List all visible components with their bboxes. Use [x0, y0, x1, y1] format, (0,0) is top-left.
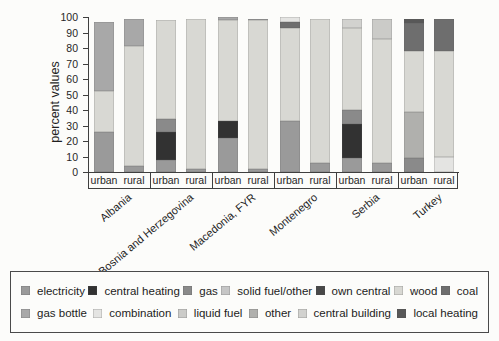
legend-swatch-icon — [178, 309, 187, 318]
country-label-albania: Albania — [98, 191, 134, 224]
country-labels: AlbaniaBosnia and HerzegovinaMacedonia, … — [88, 191, 458, 261]
y-tick-mark — [83, 17, 88, 18]
legend-label: coal — [457, 285, 478, 297]
legend-item-central-heating: central heating — [88, 285, 179, 297]
legend-label: local heating — [413, 307, 478, 319]
legend-item-electricity: electricity — [21, 285, 85, 297]
segment-coal — [404, 23, 424, 51]
legend-box: electricitycentral heatinggassolid fuel/… — [10, 271, 489, 333]
legend-swatch-icon — [93, 309, 102, 318]
segment-central-heating — [156, 132, 176, 160]
y-tick-mark — [83, 79, 88, 80]
segment-electricity — [342, 158, 362, 172]
segment-wood — [186, 19, 206, 169]
segment-central-heating — [218, 121, 238, 138]
y-tick-label: 40 — [52, 105, 78, 115]
segment-gas — [156, 119, 176, 131]
legend-item-solid-fuel-other: solid fuel/other — [221, 285, 312, 297]
country-label-montenegro: Montenegro — [267, 191, 320, 238]
legend-item-combination: combination — [93, 307, 171, 319]
segment-electricity — [156, 160, 176, 172]
legend-item-wood: wood — [394, 285, 438, 297]
y-tick-mark — [83, 95, 88, 96]
plot-area — [88, 17, 459, 173]
bar-turkey-urban — [404, 19, 424, 172]
legend-row: electricitycentral heatinggassolid fuel/… — [21, 285, 478, 297]
segment-electricity — [280, 121, 300, 172]
y-tick-mark — [83, 172, 88, 173]
segment-central-heating — [342, 124, 362, 158]
segment-gas-bottle — [124, 19, 144, 47]
y-tick-mark — [83, 126, 88, 127]
bar-turkey-rural — [434, 19, 454, 172]
legend-label: wood — [410, 285, 438, 297]
segment-central-building — [342, 19, 362, 28]
segment-other — [404, 112, 424, 159]
bar-macedonia-fyr-rural — [248, 19, 268, 172]
bar-montenegro-urban — [280, 17, 300, 172]
segment-wood — [94, 91, 114, 131]
bar-bosnia-and-herzegovina-rural — [186, 19, 206, 172]
y-tick-label: 80 — [52, 43, 78, 53]
segment-wood — [156, 20, 176, 119]
segment-wood — [434, 51, 454, 156]
legend-swatch-icon — [21, 286, 30, 295]
y-tick-mark — [83, 33, 88, 34]
segment-wood — [310, 19, 330, 163]
legend-label: gas — [199, 285, 218, 297]
bar-bosnia-and-herzegovina-urban — [156, 20, 176, 172]
x-axis-label-row: urbanruralurbanruralurbanruralurbanrural… — [88, 172, 458, 189]
segment-electricity — [310, 163, 330, 172]
segment-liquid-fuel — [372, 19, 392, 39]
segment-gas — [404, 158, 424, 172]
legend-label: electricity — [37, 285, 85, 297]
legend-swatch-icon — [441, 286, 450, 295]
segment-combination — [434, 157, 454, 173]
y-tick-mark — [83, 64, 88, 65]
segment-wood — [248, 20, 268, 169]
segment-wood — [124, 46, 144, 165]
legend-label: own central — [332, 285, 391, 297]
segment-wood — [218, 20, 238, 121]
legend-swatch-icon — [316, 286, 325, 295]
legend-item-liquid-fuel: liquid fuel — [178, 307, 243, 319]
segment-coal — [434, 19, 454, 52]
y-tick-label: 100 — [52, 12, 78, 22]
y-tick-mark — [83, 157, 88, 158]
legend-row: gas bottlecombinationliquid fuelothercen… — [21, 307, 478, 319]
bar-serbia-urban — [342, 19, 362, 172]
legend-swatch-icon — [394, 286, 403, 295]
legend-swatch-icon — [298, 309, 307, 318]
legend-label: other — [265, 307, 291, 319]
legend-swatch-icon — [183, 286, 192, 295]
y-tick-label: 10 — [52, 152, 78, 162]
legend-item-local-heating: local heating — [397, 307, 478, 319]
legend-item-other: other — [249, 307, 291, 319]
legend-item-own-central: own central — [316, 285, 391, 297]
legend-swatch-icon — [21, 309, 30, 318]
segment-electricity — [94, 132, 114, 172]
bar-macedonia-fyr-urban — [218, 17, 238, 172]
x-tick-label-rural: rural — [419, 174, 469, 186]
y-tick-label: 60 — [52, 74, 78, 84]
legend-item-coal: coal — [441, 285, 478, 297]
legend-label: liquid fuel — [194, 307, 243, 319]
country-label-macedonia-fyr: Macedonia, FYR — [187, 191, 257, 253]
legend-swatch-icon — [88, 286, 97, 295]
legend-swatch-icon — [249, 309, 258, 318]
y-tick-label: 90 — [52, 28, 78, 38]
legend-label: solid fuel/other — [237, 285, 312, 297]
y-tick-label: 30 — [52, 121, 78, 131]
bar-montenegro-rural — [310, 19, 330, 172]
bar-serbia-rural — [372, 19, 392, 172]
stacked-bar-chart-figure: percent values urbanruralurbanruralurban… — [0, 0, 499, 341]
legend-label: central building — [314, 307, 391, 319]
y-tick-label: 0 — [52, 167, 78, 177]
bar-albania-rural — [124, 19, 144, 172]
legend-item-gas-bottle: gas bottle — [21, 307, 87, 319]
legend-label: combination — [109, 307, 171, 319]
segment-wood — [280, 28, 300, 121]
legend-label: central heating — [104, 285, 179, 297]
segment-gas-bottle — [94, 22, 114, 92]
segment-wood — [342, 28, 362, 110]
